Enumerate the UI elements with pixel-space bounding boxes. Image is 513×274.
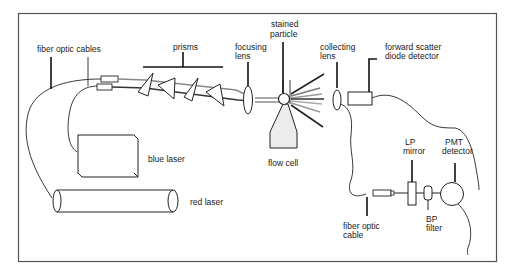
label-flow-cell: flow cell — [268, 158, 298, 168]
label-stained-particle-2: particle — [270, 29, 298, 39]
label-forward-scatter-2: diode detector — [385, 51, 439, 61]
red-laser — [53, 190, 178, 212]
flow-cytometer-diagram: fiber optic cables prisms focusing lens … — [0, 0, 513, 274]
label-lp-mirror-2: mirror — [403, 146, 425, 156]
label-prisms: prisms — [173, 42, 198, 52]
label-bp-filter-2: filter — [426, 223, 442, 233]
label-blue-laser: blue laser — [148, 154, 185, 164]
label-fiber-optic-cable-2: cable — [343, 230, 364, 240]
label-pmt-detector-2: detector — [442, 146, 473, 156]
label-stained-particle-1: stained — [271, 19, 299, 29]
label-focusing-lens-2: lens — [235, 51, 251, 61]
blue-laser — [78, 135, 138, 177]
label-fiber-optic-cables: fiber optic cables — [37, 44, 101, 54]
label-collecting-lens-2: lens — [320, 51, 336, 61]
fiber-connector-top — [101, 76, 118, 82]
label-red-laser: red laser — [190, 197, 223, 207]
fiber-connector-bottom — [97, 84, 112, 90]
